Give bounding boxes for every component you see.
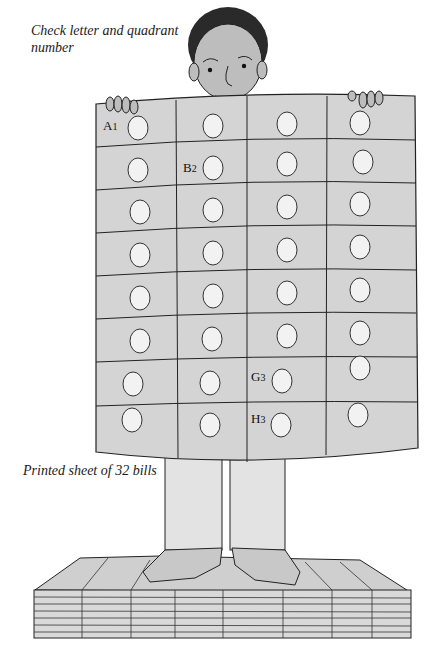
label-a1: A1	[103, 118, 117, 133]
label-h3: H3	[251, 411, 265, 426]
man-head	[188, 7, 268, 100]
illustration: A1 B2 G3 H3	[0, 0, 429, 654]
label-g3: G3	[251, 369, 265, 384]
bill-stack	[34, 556, 411, 638]
bill-sheet: A1 B2 G3 H3	[96, 94, 418, 462]
label-b2: B2	[183, 160, 197, 175]
